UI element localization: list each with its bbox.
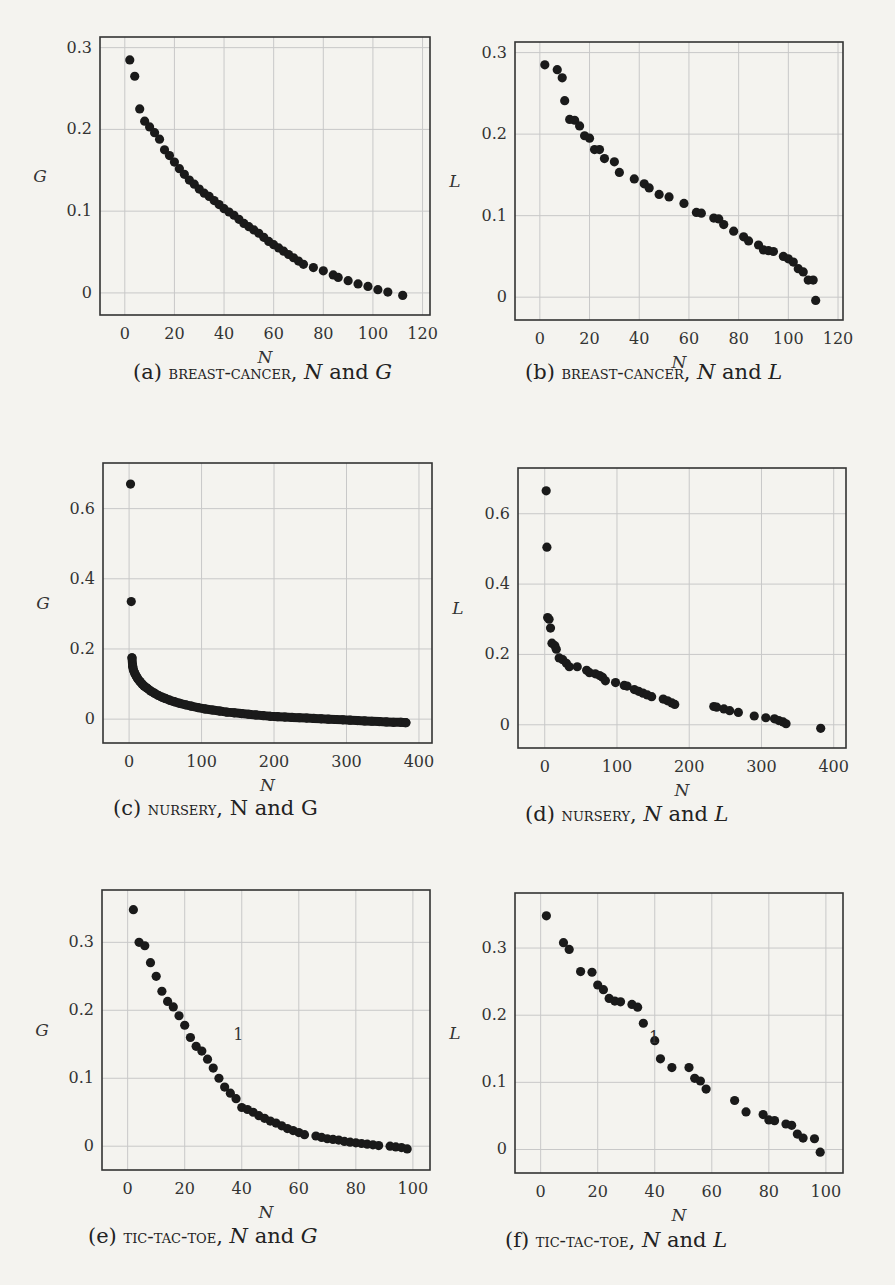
x-tick-labels: 020406080100	[536, 1182, 842, 1201]
y-tick-labels: 00.10.20.3	[482, 938, 507, 1158]
svg-text:100: 100	[811, 1182, 842, 1201]
svg-text:40: 40	[645, 1182, 665, 1201]
caption-f: (f) tic-tac-toe, N and L	[505, 1228, 727, 1252]
svg-text:0.3: 0.3	[482, 938, 507, 957]
svg-text:0.2: 0.2	[482, 1005, 507, 1024]
grid	[515, 893, 843, 1173]
annotation-label: 1	[649, 1028, 659, 1047]
y-axis-label: L	[448, 1023, 460, 1043]
x-axis-label: N	[671, 1205, 688, 1225]
svg-text:0: 0	[497, 1139, 507, 1158]
svg-text:0.1: 0.1	[482, 1072, 507, 1091]
panel-f: 02040608010000.10.20.3NL1 (f) tic-tac-to…	[0, 0, 895, 1285]
plot-frame	[515, 893, 843, 1173]
svg-text:80: 80	[759, 1182, 779, 1201]
svg-text:60: 60	[702, 1182, 722, 1201]
chart-f: 02040608010000.10.20.3NL1	[0, 0, 895, 1285]
svg-text:0: 0	[536, 1182, 546, 1201]
svg-text:20: 20	[588, 1182, 608, 1201]
